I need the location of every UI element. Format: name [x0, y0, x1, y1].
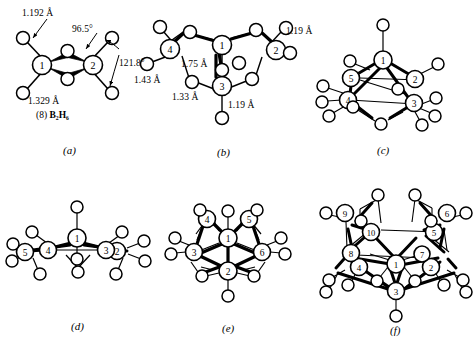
panel-e-vertex-1: 1 [226, 234, 231, 244]
panel-a-label-length-top: 1.192 Å [22, 8, 53, 18]
panel-e-vertex-5: 5 [247, 215, 252, 225]
panel-b-diagram: 1 2 3 4 [141, 21, 297, 125]
caption-e: (e) [222, 322, 234, 334]
borane-structures-figure: 1 2 [0, 0, 474, 342]
panel-f-vertex-5: 5 [432, 228, 437, 238]
panel-f-vertex-10: 10 [367, 228, 376, 238]
caption-b: (b) [217, 146, 230, 158]
panel-a-formula-number: (8) [36, 110, 47, 120]
panel-d-diagram: 1 2 3 4 5 [6, 201, 151, 280]
panel-e-vertex-4: 4 [205, 215, 210, 225]
caption-a: (a) [63, 144, 76, 156]
panel-e-vertex-6: 6 [260, 248, 265, 258]
panel-b-vertex-4: 4 [168, 44, 173, 55]
panel-f-vertex-9: 9 [343, 209, 348, 219]
panel-b-label-left: 1.43 Å [134, 75, 160, 85]
panel-c-diagram: 1 2 3 4 5 [316, 19, 444, 131]
panel-a-formula-text: B₂H₆ [49, 110, 68, 120]
panel-a-diagram: 1 2 [17, 19, 120, 100]
panel-d-vertex-5: 5 [23, 248, 28, 258]
panel-b-label-bottom: 1.19 Å [228, 100, 254, 110]
panel-f-vertex-8: 8 [349, 249, 354, 259]
panel-c-vertex-5: 5 [349, 74, 354, 84]
panel-a-formula: (8) B₂H₆ [36, 110, 69, 120]
panel-b-vertex-3: 3 [220, 81, 225, 92]
panel-a-label-angle-left: 96.5° [72, 24, 93, 34]
panel-f-diagram: 1 2 3 4 5 6 7 8 9 10 [320, 189, 472, 322]
panel-a-vertex-1: 1 [40, 60, 45, 71]
panel-d-vertex-3: 3 [104, 246, 109, 256]
panel-b-label-mid: 1.75 Å [181, 59, 207, 69]
panel-f-vertex-4: 4 [357, 263, 362, 273]
panel-f-vertex-6: 6 [445, 209, 450, 219]
panel-e-vertex-3: 3 [192, 248, 197, 258]
panel-d-vertex-2: 2 [115, 247, 120, 257]
caption-d: (d) [71, 320, 84, 332]
panel-a-label-length-bottom: 1.329 Å [28, 96, 59, 106]
panel-f-vertex-7: 7 [420, 250, 424, 260]
caption-f: (f) [390, 324, 400, 336]
panel-a-label-angle-right: 121.8° [119, 58, 145, 68]
panel-c-vertex-2: 2 [413, 75, 418, 85]
panel-d-vertex-1: 1 [75, 234, 80, 244]
panel-b-vertex-1: 1 [220, 40, 225, 51]
panel-b-label-lower: 1.33 Å [172, 92, 198, 102]
panel-a-vertex-2: 2 [91, 60, 96, 71]
panel-c-vertex-1: 1 [381, 56, 386, 66]
molecular-diagrams-canvas: 1 2 [0, 0, 474, 342]
panel-b-vertex-2: 2 [274, 45, 279, 56]
panel-c-vertex-3: 3 [412, 99, 417, 109]
panel-e-diagram: 1 2 3 4 5 6 [165, 204, 291, 302]
panel-f-vertex-3: 3 [394, 287, 399, 297]
panel-e-vertex-2: 2 [226, 267, 231, 277]
caption-c: (c) [377, 144, 389, 156]
panel-d-vertex-4: 4 [46, 246, 51, 256]
panel-b-label-right: 1.19 Å [286, 26, 312, 36]
panel-f-vertex-2: 2 [429, 263, 434, 273]
panel-f-vertex-1: 1 [394, 260, 399, 270]
